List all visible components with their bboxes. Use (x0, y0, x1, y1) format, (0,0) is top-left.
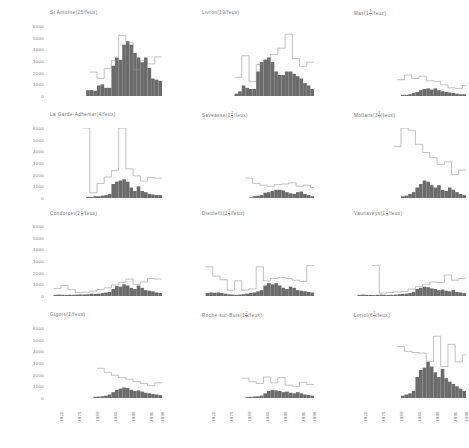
bar (122, 388, 126, 399)
step-line-series (206, 266, 314, 291)
panel-title-name: Loriol (354, 313, 368, 318)
bar (274, 390, 278, 398)
y-axis: 6000500040003000200010000 (8, 26, 44, 96)
chart-panel: Dieulefit(223/feux) (160, 210, 312, 309)
bar (365, 295, 369, 296)
bar (455, 292, 459, 296)
bar (90, 197, 94, 198)
bar (448, 382, 452, 398)
bar (430, 185, 434, 198)
panel-title: Dieulefit(223/feux) (202, 210, 245, 218)
bar (423, 181, 427, 199)
bar (213, 293, 217, 296)
bar (433, 289, 437, 296)
panel-title: Gigors(2/feux) (50, 312, 85, 318)
bar (459, 94, 463, 96)
bar (155, 195, 159, 198)
bar (151, 79, 155, 97)
bar (129, 188, 133, 199)
bar (303, 291, 307, 296)
bar (122, 284, 126, 296)
bar (278, 75, 282, 96)
bar (119, 60, 123, 96)
bar (285, 192, 289, 198)
chart-panel: St Antoine(25/feux)600050004000300020001… (8, 10, 160, 109)
bar (242, 86, 246, 97)
bar (260, 62, 264, 96)
y-axis-tick-label: 1000 (33, 184, 44, 189)
bar (459, 194, 463, 198)
bar (289, 287, 293, 296)
bar (90, 90, 94, 96)
bar (462, 94, 466, 96)
y-axis-tick-label: 6000 (33, 224, 44, 229)
x-axis-tick-label: 1975 (381, 411, 386, 422)
bar (426, 182, 430, 198)
chart-panel: Vaunaveys(113/feux) (312, 210, 464, 309)
bar (104, 195, 108, 198)
bar (408, 94, 412, 96)
bar (90, 294, 94, 296)
bar (104, 396, 108, 398)
panel-unit: /feux (376, 313, 388, 318)
bar (151, 394, 155, 398)
bar (296, 290, 300, 296)
bar (285, 72, 289, 97)
bar (119, 389, 123, 398)
x-axis-tick-label: 1995 (453, 411, 458, 422)
bar (423, 287, 427, 296)
bar (426, 362, 430, 398)
bar (245, 88, 249, 96)
bar (401, 95, 405, 96)
y-axis: 6000500040003000200010000 (8, 328, 44, 398)
bar (242, 294, 246, 296)
bar (86, 90, 90, 96)
bar (238, 91, 242, 96)
bar (289, 193, 293, 198)
panel-unit: /feux (71, 312, 83, 317)
panel-title-name: La Garde-Adhemar (50, 112, 97, 117)
plot-area (354, 226, 466, 296)
x-axis-tick-label: 1990 (283, 411, 288, 422)
y-axis-tick-label: 2000 (33, 270, 44, 275)
chart-panel: Loriol(612/feux)197019751980198519901995… (312, 312, 464, 411)
bar (368, 295, 372, 296)
y-axis: 6000500040003000200010000 (8, 128, 44, 198)
bar (289, 393, 293, 398)
bar (238, 295, 242, 296)
panel-title: Livron(19/feux) (202, 10, 239, 16)
chart-panel: Saveasse(123/feux) (160, 112, 312, 211)
y-axis-tick-label: 0 (41, 94, 44, 99)
bar (271, 62, 275, 96)
bar (72, 295, 76, 296)
panel-title: Loriol(612/feux) (354, 312, 390, 320)
step-line-series (242, 377, 314, 386)
plot-area (202, 128, 314, 198)
bar (292, 393, 296, 398)
panel-title: Mas(112/feux) (354, 10, 386, 18)
bar (307, 292, 311, 296)
bar (137, 286, 141, 297)
bar (108, 395, 112, 399)
y-axis-tick-label: 2000 (33, 172, 44, 177)
y-axis-tick-label: 6000 (33, 126, 44, 131)
bar (300, 291, 304, 296)
bar (405, 95, 409, 96)
bar (206, 293, 210, 296)
bar (300, 79, 304, 97)
panel-unit: /feux (381, 113, 393, 118)
bar (119, 181, 123, 199)
bar-series (93, 388, 162, 399)
bar (245, 294, 249, 296)
bar (263, 60, 267, 96)
x-axis-tick-label: 1990 (435, 411, 440, 422)
panel-title: Vaunaveys(113/feux) (354, 210, 403, 218)
chart-panel: Gigors(2/feux)60005000400030002000100001… (8, 312, 160, 411)
panel-title-name: Roche-sur-Buis (202, 313, 240, 318)
bar (144, 192, 148, 198)
bar (133, 191, 137, 198)
panel-title: La Garde-Adhemar(4/feux) (50, 112, 116, 118)
y-axis-tick-label: 3000 (33, 161, 44, 166)
y-axis-tick-label: 5000 (33, 35, 44, 40)
bar (249, 197, 253, 198)
